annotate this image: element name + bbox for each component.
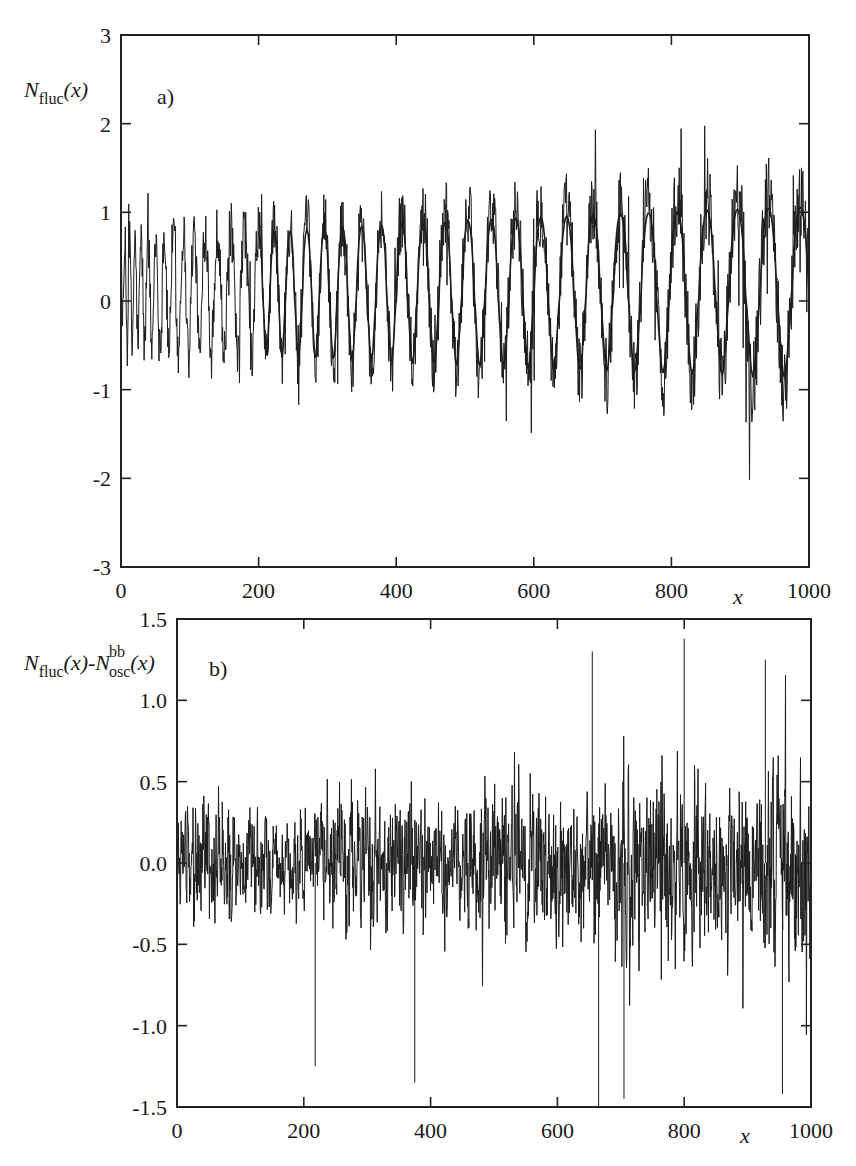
x-tick-label: 1000 [787,578,831,603]
y-tick-label: -1 [93,378,111,403]
y-tick-label: 0.5 [140,770,168,795]
panel-a-y-axis-label: Nfluc(x) [23,77,88,107]
panel-a-tag: a) [157,84,174,109]
x-tick-label: 1000 [789,1118,833,1143]
y-tick-label: 0.0 [140,851,168,876]
x-tick-label: 600 [541,1118,574,1143]
y-tick-label: -2 [93,466,111,491]
y-tick-label: 2 [100,112,111,137]
x-tick-label: 0 [172,1118,183,1143]
panel-a-chart: -3-2-10123 02004006008001000 a) Nfluc(x)… [23,23,831,609]
panel-a-x-axis-label: x [732,584,743,609]
y-tick-label: -1.5 [132,1095,167,1120]
panel-b-tag: b) [209,656,227,681]
y-tick-label: 1 [100,200,111,225]
panel-b-x-tick-labels: 02004006008001000 [172,1118,834,1143]
panel-b-y-axis-label: Nfluc(x)-Nbbosc(x) [23,643,155,680]
x-tick-label: 400 [414,1118,447,1143]
x-tick-label: 200 [242,578,275,603]
x-tick-label: 0 [116,578,127,603]
panel-a-frame [121,35,809,567]
y-tick-label: 3 [100,23,111,48]
y-tick-label: -0.5 [132,932,167,957]
panel-a-x-tick-labels: 02004006008001000 [116,578,832,603]
panel-b-chart: -1.5-1.0-0.50.00.51.01.5 020040060080010… [23,607,833,1148]
y-tick-label: 1.5 [140,607,168,632]
fluctuation-line [121,126,809,480]
residual-line [177,675,811,1035]
y-tick-label: -3 [93,555,111,580]
x-tick-label: 800 [668,1118,701,1143]
y-tick-label: -1.0 [132,1014,167,1039]
x-tick-label: 400 [380,578,413,603]
y-tick-label: 0 [100,289,111,314]
panel-a-fluctuation-series [121,126,809,480]
x-tick-label: 800 [655,578,688,603]
panel-b-y-tick-labels: -1.5-1.0-0.50.00.51.01.5 [132,607,167,1120]
panel-b-x-axis-label: x [739,1123,750,1148]
y-tick-label: 1.0 [140,688,168,713]
panel-a-ticks [121,35,809,567]
figure: -3-2-10123 02004006008001000 a) Nfluc(x)… [0,0,856,1166]
panel-a-y-tick-labels: -3-2-10123 [93,23,111,580]
x-tick-label: 200 [287,1118,320,1143]
panel-b-residual-series [177,639,811,1107]
x-tick-label: 600 [517,578,550,603]
